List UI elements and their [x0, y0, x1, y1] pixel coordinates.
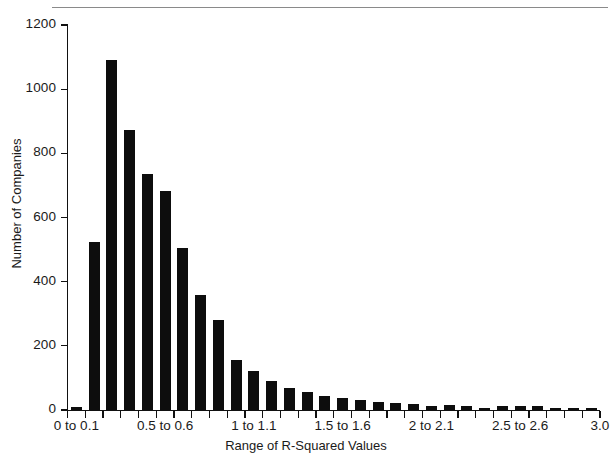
x-tick-0.9: [227, 411, 228, 418]
x-tick-0.1: [85, 411, 86, 418]
x-tick-0.2: [102, 411, 103, 418]
x-tick-0.8: [209, 411, 210, 418]
x-tick-3.0: [599, 411, 600, 418]
bar: [142, 174, 153, 410]
bar: [231, 360, 242, 410]
bar: [497, 406, 508, 410]
bar: [266, 381, 277, 410]
bar: [337, 398, 348, 410]
x-tick-label: 2.5 to 2.6: [492, 418, 548, 433]
bar: [568, 408, 579, 410]
bar: [89, 242, 100, 410]
bar: [71, 407, 82, 410]
bar: [461, 406, 472, 410]
bar: [177, 248, 188, 410]
x-tick-1.6: [351, 411, 352, 418]
bar: [302, 392, 313, 410]
bar: [586, 408, 597, 410]
x-tick-1.0: [244, 411, 245, 418]
x-tick-2.2: [457, 411, 458, 418]
x-tick-1.1: [262, 411, 263, 418]
bar: [284, 388, 295, 410]
bar: [426, 406, 437, 410]
x-tick-2.9: [582, 411, 583, 418]
x-tick-0.0: [67, 411, 68, 418]
x-tick-2.6: [528, 411, 529, 418]
bar: [106, 60, 117, 410]
x-tick-2.8: [564, 411, 565, 418]
x-tick-1.2: [280, 411, 281, 418]
x-tick-label: 1.5 to 1.6: [314, 418, 370, 433]
bar: [373, 402, 384, 410]
x-tick-label: 3.0: [591, 418, 610, 433]
y-axis-title: Number of Companies: [9, 114, 24, 294]
x-tick-1.3: [298, 411, 299, 418]
bar: [319, 396, 330, 410]
bar: [355, 400, 366, 410]
x-tick-1.7: [369, 411, 370, 418]
bar: [160, 191, 171, 410]
x-tick-1.4: [315, 411, 316, 418]
x-tick-1.9: [404, 411, 405, 418]
x-tick-0.4: [138, 411, 139, 418]
x-tick-0.6: [173, 411, 174, 418]
bar: [390, 403, 401, 410]
page-corner-artifact: [28, 458, 40, 466]
x-axis-title: Range of R-Squared Values: [0, 438, 612, 453]
x-tick-2.1: [440, 411, 441, 418]
x-tick-label: 0.5 to 0.6: [137, 418, 193, 433]
bar: [515, 406, 526, 410]
bar: [408, 404, 419, 410]
bar: [124, 130, 135, 410]
x-tick-2.7: [546, 411, 547, 418]
x-tick-2.5: [511, 411, 512, 418]
bar: [550, 408, 561, 410]
x-tick-0.3: [120, 411, 121, 418]
x-tick-1.8: [386, 411, 387, 418]
x-tick-1.5: [333, 411, 334, 418]
x-tick-0.5: [156, 411, 157, 418]
bar: [195, 295, 206, 410]
x-tick-label: 0 to 0.1: [54, 418, 99, 433]
x-tick-2.4: [493, 411, 494, 418]
bar: [248, 371, 259, 410]
bar: [532, 406, 543, 410]
x-tick-2.3: [475, 411, 476, 418]
bars-layer: [0, 0, 612, 410]
bar: [213, 320, 224, 410]
x-tick-label: 1 to 1.1: [231, 418, 276, 433]
x-tick-2.0: [422, 411, 423, 418]
histogram-figure: 020040060080010001200 0 to 0.10.5 to 0.6…: [0, 0, 612, 468]
bar: [479, 408, 490, 410]
bar: [444, 405, 455, 410]
x-tick-0.7: [191, 411, 192, 418]
x-tick-label: 2 to 2.1: [409, 418, 454, 433]
